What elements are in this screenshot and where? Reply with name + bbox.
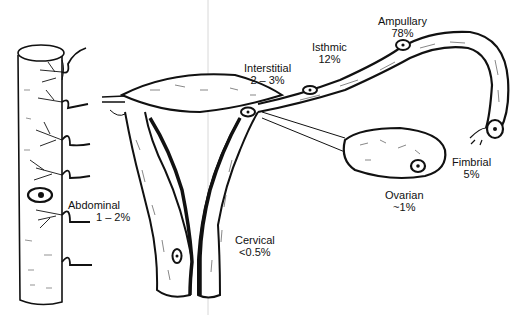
label-interstitial: Interstitial 2 – 3% bbox=[244, 62, 291, 86]
site-pct: <0.5% bbox=[235, 246, 275, 258]
label-fimbrial: Fimbrial 5% bbox=[452, 156, 491, 180]
label-ampullary: Ampullary 78% bbox=[378, 15, 427, 39]
site-pct: 78% bbox=[378, 27, 427, 39]
site-name: Ampullary bbox=[378, 15, 427, 27]
label-ovarian: Ovarian ~1% bbox=[385, 189, 424, 213]
site-name: Ovarian bbox=[385, 189, 424, 201]
site-pct: ~1% bbox=[385, 201, 424, 213]
site-pct: 5% bbox=[452, 168, 491, 180]
site-pct: 2 – 3% bbox=[244, 74, 291, 86]
site-name: Abdominal bbox=[68, 199, 130, 211]
site-name: Isthmic bbox=[312, 41, 347, 53]
uterus-icon bbox=[102, 74, 282, 297]
ovary-icon bbox=[344, 128, 446, 178]
label-isthmic: Isthmic 12% bbox=[312, 41, 347, 65]
label-abdominal: Abdominal 1 – 2% bbox=[68, 199, 130, 223]
anatomy-illustration bbox=[0, 0, 520, 315]
site-name: Fimbrial bbox=[452, 156, 491, 168]
site-name: Cervical bbox=[235, 234, 275, 246]
site-name: Interstitial bbox=[244, 62, 291, 74]
label-cervical: Cervical <0.5% bbox=[235, 234, 275, 258]
site-pct: 1 – 2% bbox=[68, 211, 130, 223]
ectopic-pregnancy-diagram: Ampullary 78% Isthmic 12% Interstitial 2… bbox=[0, 0, 520, 315]
intestine-icon bbox=[18, 45, 92, 305]
site-pct: 12% bbox=[312, 53, 347, 65]
